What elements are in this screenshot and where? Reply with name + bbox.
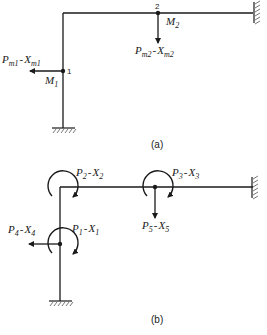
force-label-pm2-xm2: Pm2-Xm2 bbox=[134, 44, 174, 59]
node-1-number: 1 bbox=[67, 67, 72, 76]
moment-label-m1: M1 bbox=[44, 74, 58, 89]
caption-a: (a) bbox=[151, 139, 163, 150]
caption-b: (b) bbox=[151, 314, 163, 325]
rotation-arrow-icon bbox=[48, 171, 78, 197]
dof-label-p3-x3: P3-X3 bbox=[171, 166, 199, 181]
fixed-base-support-icon bbox=[49, 301, 73, 306]
moment-label-m2: M2 bbox=[165, 15, 179, 30]
figure-b: P2-X2 P3-X3 P5-X5 P1-X1 P4-X4 (b) bbox=[7, 166, 258, 325]
dof-label-p4-x4: P4-X4 bbox=[7, 223, 35, 238]
figure-a: 2 M2 Pm2-Xm2 1 Pm1-Xm1 M1 (a) bbox=[1, 1, 260, 150]
force-label-pm1-xm1: Pm1-Xm1 bbox=[1, 53, 41, 68]
rotation-arrow-icon bbox=[143, 171, 173, 197]
frame-diagrams: 2 M2 Pm2-Xm2 1 Pm1-Xm1 M1 (a) bbox=[0, 0, 267, 335]
fixed-wall-support-icon bbox=[254, 1, 260, 24]
fixed-base-support-icon bbox=[52, 128, 76, 133]
dof-label-p2-x2: P2-X2 bbox=[75, 166, 103, 181]
dof-label-p5-x5: P5-X5 bbox=[141, 219, 169, 234]
node-2-number: 2 bbox=[155, 2, 160, 11]
